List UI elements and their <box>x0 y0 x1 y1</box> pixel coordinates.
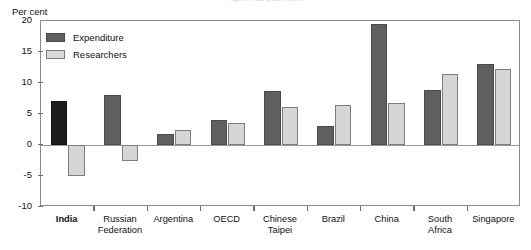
bar-researchers-russian-federation <box>122 145 139 161</box>
x-tick-mark <box>360 206 361 211</box>
bar-expenditure-oecd <box>211 120 228 145</box>
chart-figure: Figure: R&D growth rates Per cent Expend… <box>0 0 531 250</box>
y-tick-label: -5 <box>6 169 32 180</box>
x-axis-line <box>41 205 519 206</box>
x-category-label: India <box>40 214 93 225</box>
x-category-label: Russian Federation <box>93 214 146 236</box>
bar-researchers-china <box>388 103 405 145</box>
y-tick-label: 0 <box>6 138 32 149</box>
x-tick-mark <box>253 206 254 211</box>
y-tick-label: 15 <box>6 45 32 56</box>
y-tick-label: 10 <box>6 76 32 87</box>
y-tick-mark <box>38 113 43 114</box>
x-category-label: Chinese Taipei <box>253 214 306 236</box>
bar-expenditure-india <box>51 101 68 145</box>
zero-baseline <box>41 145 519 146</box>
x-category-label: South Africa <box>413 214 466 236</box>
cut-off-title: Figure: R&D growth rates <box>0 0 531 4</box>
x-tick-mark <box>307 206 308 211</box>
x-category-label: Brazil <box>307 214 360 225</box>
bar-expenditure-singapore <box>477 64 494 145</box>
bar-researchers-brazil <box>335 105 352 145</box>
x-tick-mark <box>147 206 148 211</box>
x-tick-mark <box>413 206 414 211</box>
plot-area <box>40 20 520 206</box>
bar-expenditure-south-africa <box>424 90 441 145</box>
bar-expenditure-china <box>371 24 388 145</box>
y-tick-mark <box>38 51 43 52</box>
bar-researchers-chinese-taipei <box>282 107 299 145</box>
bar-researchers-oecd <box>228 123 245 145</box>
bar-expenditure-russian-federation <box>104 95 121 145</box>
x-tick-mark <box>467 206 468 211</box>
y-tick-mark <box>38 175 43 176</box>
x-category-label: Singapore <box>467 214 520 225</box>
bar-researchers-south-africa <box>442 74 459 145</box>
y-tick-label: -10 <box>6 200 32 211</box>
bar-expenditure-argentina <box>157 134 174 145</box>
plot-inner <box>41 21 519 206</box>
bar-expenditure-brazil <box>317 126 334 145</box>
y-tick-mark <box>38 82 43 83</box>
x-category-label: China <box>360 214 413 225</box>
x-tick-mark <box>200 206 201 211</box>
bar-researchers-argentina <box>175 130 192 146</box>
bar-expenditure-chinese-taipei <box>264 91 281 145</box>
x-tick-mark <box>93 206 94 211</box>
y-tick-mark <box>38 144 43 145</box>
y-tick-label: 20 <box>6 14 32 25</box>
y-tick-mark <box>38 206 43 207</box>
x-category-label: Argentina <box>147 214 200 225</box>
bar-researchers-singapore <box>495 69 512 145</box>
x-category-label: OECD <box>200 214 253 225</box>
bar-researchers-india <box>68 145 85 176</box>
y-tick-label: 5 <box>6 107 32 118</box>
